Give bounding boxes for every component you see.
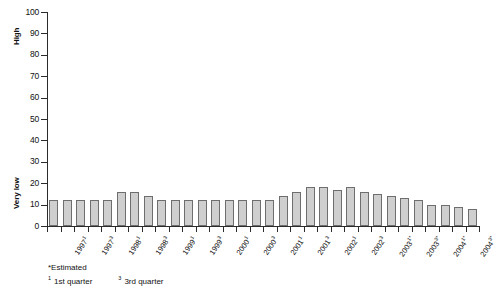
x-tick (196, 227, 197, 232)
footnote-q1-label: 1st quarter (54, 277, 92, 286)
x-tick-label: 20023 (367, 234, 388, 257)
y-tick-label-0: 0 (5, 222, 39, 231)
bar (252, 200, 261, 226)
footnote-q3-label: 3rd quarter (124, 277, 163, 286)
bar (76, 200, 85, 226)
bar (90, 200, 99, 226)
x-tick (331, 227, 332, 232)
x-tick (115, 227, 116, 232)
bar (319, 187, 328, 226)
x-tick (223, 227, 224, 232)
x-tick (236, 227, 237, 232)
bar (333, 190, 342, 226)
bar (454, 207, 463, 226)
plot-area (47, 12, 479, 226)
y-tick-label-20: 20 (5, 179, 39, 188)
x-tick-label: 20021 (340, 234, 361, 257)
y-tick-label-90: 90 (5, 29, 39, 38)
x-tick (61, 227, 62, 232)
footnotes: *Estimated 11st quarter33rd quarter (48, 262, 164, 287)
x-tick-label: 20041* (449, 234, 471, 258)
bar (144, 196, 153, 226)
x-tick (250, 227, 251, 232)
footnote-estimated: *Estimated (48, 262, 164, 273)
x-tick-label: 19981 (124, 234, 145, 257)
y-tick-label-50: 50 (5, 115, 39, 124)
x-tick (358, 227, 359, 232)
x-tick (277, 227, 278, 232)
bar (346, 187, 355, 226)
x-tick-label: 19971 (70, 234, 91, 257)
x-tick-label: 19993 (205, 234, 226, 257)
x-tick (290, 227, 291, 232)
x-tick (304, 227, 305, 232)
bar (49, 200, 58, 226)
x-tick (479, 227, 480, 232)
x-tick (74, 227, 75, 232)
bar (157, 200, 166, 226)
x-tick-label: 20031* (395, 234, 417, 258)
bar (306, 187, 315, 226)
bar (211, 200, 220, 226)
x-tick (452, 227, 453, 232)
x-tick-label: 20003 (259, 234, 280, 257)
y-tick-label-80: 80 (5, 50, 39, 59)
bar (265, 200, 274, 226)
x-tick (47, 227, 48, 232)
bar (414, 200, 423, 226)
bar (387, 196, 396, 226)
bar (198, 200, 207, 226)
x-tick (466, 227, 467, 232)
bar (130, 192, 139, 226)
x-tick (439, 227, 440, 232)
x-tick (412, 227, 413, 232)
x-tick-label: 19973 (97, 234, 118, 257)
x-tick-label: 19991 (178, 234, 199, 257)
bar (441, 205, 450, 226)
bar-series (47, 12, 479, 226)
bar (292, 192, 301, 226)
x-tick-label: 19983 (151, 234, 172, 257)
bar (279, 196, 288, 226)
bar (184, 200, 193, 226)
y-tick-label-70: 70 (5, 72, 39, 81)
x-tick (344, 227, 345, 232)
x-tick (425, 227, 426, 232)
footnote-quarters: 11st quarter33rd quarter (48, 273, 164, 287)
bar (360, 192, 369, 226)
y-tick-label-30: 30 (5, 157, 39, 166)
x-tick-label: 20043* (476, 234, 498, 258)
footnote-q1-superscript: 1 (48, 275, 51, 281)
x-tick (128, 227, 129, 232)
bar (427, 205, 436, 226)
bar (63, 200, 72, 226)
bar (238, 200, 247, 226)
bar (400, 198, 409, 226)
x-tick (209, 227, 210, 232)
y-tick-label-60: 60 (5, 93, 39, 102)
x-tick (182, 227, 183, 232)
x-tick (169, 227, 170, 232)
x-tick-label: 20011 (286, 234, 307, 257)
x-tick (263, 227, 264, 232)
x-tick-label: 20013 (313, 234, 334, 257)
x-tick (317, 227, 318, 232)
x-tick-label: 20033* (422, 234, 444, 258)
x-tick (101, 227, 102, 232)
y-tick-label-10: 10 (5, 200, 39, 209)
bar (373, 194, 382, 226)
x-tick (142, 227, 143, 232)
bar (171, 200, 180, 226)
x-tick (398, 227, 399, 232)
bar (117, 192, 126, 226)
x-tick-label: 20001 (232, 234, 253, 257)
x-tick (385, 227, 386, 232)
y-tick-label-100: 100 (5, 8, 39, 17)
footnote-q3-superscript: 3 (118, 275, 121, 281)
x-tick (88, 227, 89, 232)
bar (225, 200, 234, 226)
bar (468, 209, 477, 226)
y-tick-label-40: 40 (5, 136, 39, 145)
x-tick (371, 227, 372, 232)
